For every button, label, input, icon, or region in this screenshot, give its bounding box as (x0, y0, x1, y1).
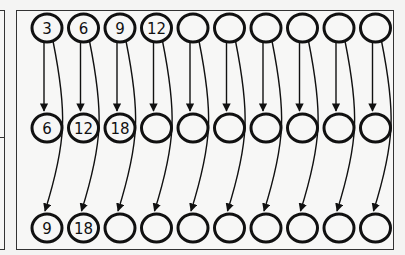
circle-bottom-4 (142, 214, 172, 242)
circle-label: 18 (110, 120, 129, 138)
circle-middle-5 (178, 114, 208, 142)
circle-middle-1: 6 (32, 114, 62, 142)
circle-label: 9 (42, 220, 52, 238)
circle-label: 12 (147, 20, 166, 38)
circle-bottom-5 (178, 214, 208, 242)
circle-bottom-1: 9 (32, 214, 62, 242)
circle-top-9 (324, 14, 354, 42)
circle-middle-8 (288, 114, 318, 142)
circle-top-4: 12 (142, 14, 172, 42)
circles-group: 3691261218918 (32, 14, 391, 242)
circle-top-2: 6 (69, 14, 99, 42)
multiples-diagram: 3691261218918 (0, 0, 405, 255)
circle-label: 9 (115, 20, 125, 38)
circle-top-3: 9 (105, 14, 135, 42)
circle-middle-10 (361, 114, 391, 142)
circle-middle-6 (215, 114, 245, 142)
circle-bottom-7 (251, 214, 281, 242)
circle-top-8 (288, 14, 318, 42)
circle-label: 3 (42, 20, 52, 38)
circle-top-10 (361, 14, 391, 42)
circle-label: 6 (42, 120, 52, 138)
circle-middle-2: 12 (69, 114, 99, 142)
circle-bottom-10 (361, 214, 391, 242)
circle-label: 6 (79, 20, 89, 38)
circle-middle-4 (142, 114, 172, 142)
circle-bottom-6 (215, 214, 245, 242)
circle-label: 12 (74, 120, 93, 138)
circle-bottom-8 (288, 214, 318, 242)
circle-top-6 (215, 14, 245, 42)
circle-middle-3: 18 (105, 114, 135, 142)
circle-top-7 (251, 14, 281, 42)
circle-middle-7 (251, 114, 281, 142)
circle-bottom-2: 18 (69, 214, 99, 242)
circle-top-5 (178, 14, 208, 42)
circle-bottom-3 (105, 214, 135, 242)
circle-top-1: 3 (32, 14, 62, 42)
circle-label: 18 (74, 220, 93, 238)
circle-bottom-9 (324, 214, 354, 242)
circle-middle-9 (324, 114, 354, 142)
